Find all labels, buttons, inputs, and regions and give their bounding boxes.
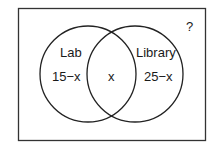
- venn-diagram: ? Lab Library 15−x x 25−x: [0, 0, 216, 149]
- library-set-label: Library: [136, 45, 176, 60]
- lab-only-value: 15−x: [52, 69, 81, 84]
- library-only-value: 25−x: [144, 69, 173, 84]
- universe-label: ?: [186, 19, 193, 34]
- intersection-value: x: [108, 69, 115, 84]
- lab-set-label: Lab: [60, 45, 82, 60]
